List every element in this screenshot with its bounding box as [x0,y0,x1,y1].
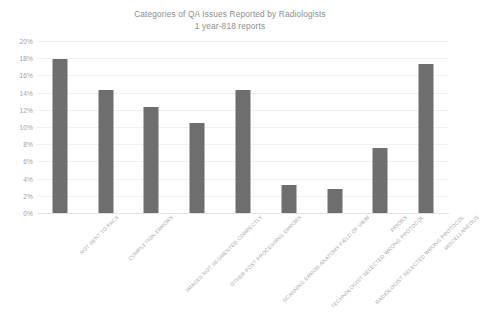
page-title: Categories of QA Issues Reported by Radi… [0,8,460,20]
x-axis-tick-label: SCANNING ERROR-ANATOMY FIELD OF VIEW [281,214,370,303]
bar-slot [312,41,358,213]
y-axis-tick-label: 0% [23,210,33,217]
bar[interactable] [52,59,67,213]
bar[interactable] [98,90,113,213]
bar[interactable] [235,90,250,213]
x-axis-tick-label: OTHER POST PROCESSING ERRORS [229,214,303,288]
x-axis-tick-label: NOT SENT TO PACS [78,214,119,255]
bar-slot [357,41,403,213]
bar-series [37,41,449,213]
bar[interactable] [373,148,388,213]
y-axis-tick-label: 12% [20,106,34,113]
bar-slot [129,41,175,213]
bar[interactable] [281,185,296,213]
bar[interactable] [419,64,434,213]
y-axis-tick-label: 10% [20,124,34,131]
bar-slot [174,41,220,213]
x-axis-tick-label: RADIOLOGIST SELECTED WRONG PROTOCOL [374,214,465,305]
y-axis-tick-label: 6% [23,158,33,165]
plot-area: 20%18%16%14%12%10%8%6%4%2%0% [37,41,449,213]
x-axis-tick-label: TECHNOLOGIST SELECTED WRONG PROTOCOL [329,214,424,309]
y-axis-tick-label: 18% [20,55,34,62]
bar[interactable] [144,107,159,213]
bar[interactable] [190,123,205,213]
bar-slot [220,41,266,213]
y-axis-tick-label: 14% [20,89,34,96]
y-axis-tick-label: 20% [20,38,34,45]
y-axis-tick-label: 2% [23,192,33,199]
bar-slot [83,41,129,213]
y-axis-tick-label: 4% [23,175,33,182]
x-axis-tick-label: COMPLETION ERRORS [127,214,174,261]
chart-title-block: Categories of QA Issues Reported by Radi… [0,8,460,32]
y-axis-tick-label: 8% [23,141,33,148]
y-axis-tick-label: 16% [20,72,34,79]
bar-slot [37,41,83,213]
chart-subtitle: 1 year-818 reports [0,20,460,32]
x-axis-labels: NOT SENT TO PACSCOMPLETION ERRORSIMAGES … [37,214,449,324]
bar[interactable] [327,189,342,213]
bar-slot [403,41,449,213]
bar-slot [266,41,312,213]
x-axis-tick-label: IMAGES NOT SEGMENTED CORRECTLY [185,214,264,293]
